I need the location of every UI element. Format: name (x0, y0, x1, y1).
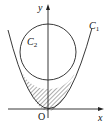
y-axis-label: y (38, 3, 42, 13)
diagram-canvas (0, 0, 109, 125)
curve-label-c2-subscript: 2 (34, 41, 38, 49)
figure: y x O C1 C2 (0, 0, 109, 125)
origin-label: O (38, 112, 45, 122)
curve-label-c2: C2 (27, 37, 37, 49)
curve-label-c2-name: C (27, 36, 34, 47)
x-axis-arrow-icon (98, 107, 104, 111)
y-axis-arrow-icon (46, 4, 50, 10)
x-axis-label: x (98, 113, 102, 123)
curve-label-c1-name: C (89, 20, 96, 31)
curve-label-c1-subscript: 1 (96, 25, 100, 33)
curve-label-c1: C1 (89, 21, 99, 33)
